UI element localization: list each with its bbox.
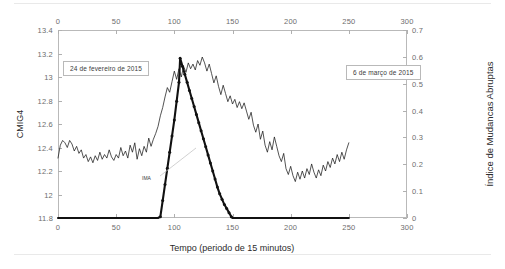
x-tick-label-bottom: 300 (400, 223, 413, 232)
y-tick-label-right: 0.2 (412, 160, 423, 169)
y-tick-label-left: 12.6 (38, 120, 53, 129)
y-tick-label-right: 0.4 (412, 106, 423, 115)
x-tick-label-top: 250 (342, 17, 355, 26)
x-tick-label-top: 100 (168, 17, 181, 26)
y-tick-label-left: 11.8 (38, 214, 53, 223)
y-tick-label-left: 13.2 (38, 49, 53, 58)
y-tick-label-right: 0.6 (412, 52, 423, 61)
y-tick-label-right: 0.1 (412, 187, 423, 196)
x-tick-label-bottom: 150 (226, 223, 239, 232)
x-tick-label-top: 0 (56, 17, 60, 26)
y-tick-label-left: 12.4 (38, 143, 53, 152)
x-tick-label-bottom: 100 (168, 223, 181, 232)
x-tick-label-bottom: 50 (112, 223, 121, 232)
x-tick-label-top: 200 (284, 17, 297, 26)
annotation-leader-line (0, 0, 505, 269)
y-tick-label-left: 13 (44, 73, 53, 82)
y-tick-label-left: 12.2 (38, 167, 53, 176)
y-tick-label-right: 0 (412, 214, 416, 223)
y-tick-label-right: 0.7 (412, 26, 423, 35)
y-tick-label-left: 13.4 (38, 26, 53, 35)
x-tick-label-top: 50 (112, 17, 121, 26)
x-tick-label-bottom: 0 (56, 223, 60, 232)
y-tick-label-right: 0.3 (412, 133, 423, 142)
x-tick-label-bottom: 200 (284, 223, 297, 232)
x-tick-label-bottom: 250 (342, 223, 355, 232)
y-tick-label-left: 12 (44, 190, 53, 199)
annotation-ima-label: IMA (142, 175, 151, 181)
y-tick-label-right: 0.5 (412, 79, 423, 88)
y-tick-label-left: 12.8 (38, 96, 53, 105)
chart-figure: Tempo (periodo de 15 minutos) CMIG4 Índi… (0, 0, 505, 269)
x-tick-label-top: 150 (226, 17, 239, 26)
